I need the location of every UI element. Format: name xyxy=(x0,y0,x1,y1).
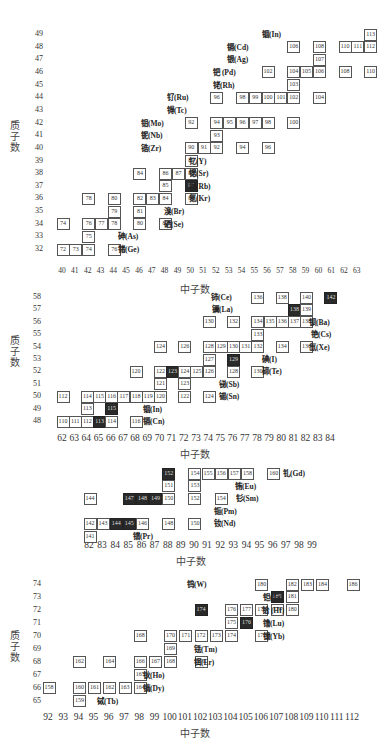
x-tick-label: 96 xyxy=(268,541,278,549)
element-label: 铟(In) xyxy=(143,404,162,413)
nuclide-cell: 171 xyxy=(179,630,192,642)
x-tick-label: 94 xyxy=(74,713,84,721)
nuclide-cell: 149 xyxy=(149,493,162,505)
x-tick-label: 51 xyxy=(199,267,207,275)
element-label: 锝(Tc) xyxy=(167,105,187,114)
x-tick-label: 98 xyxy=(134,713,144,721)
nuclide-cell: 129 xyxy=(215,341,228,353)
nuclide-cell: 81 xyxy=(133,206,146,218)
nuclide-cell: 76 xyxy=(82,218,95,230)
nuclide-cell: 119 xyxy=(142,391,155,403)
nuclide-cell: 101 xyxy=(274,92,287,104)
x-tick-label: 46 xyxy=(135,267,143,275)
nuclide-cell: 129 xyxy=(227,354,240,366)
nuclide-cell: 114 xyxy=(81,391,94,403)
nuclide-cell: 162 xyxy=(103,682,116,694)
y-tick-label: 44 xyxy=(35,93,43,101)
nuclide-cell: 180 xyxy=(286,604,299,616)
x-tick-label: 43 xyxy=(97,267,105,275)
nuclide-cell: 108 xyxy=(339,66,352,78)
x-tick-label: 103 xyxy=(208,713,222,721)
element-label: 钼(Mo) xyxy=(141,118,164,127)
x-tick-label: 72 xyxy=(179,434,189,442)
nuclide-cell: 174 xyxy=(195,604,208,616)
x-tick-label: 53 xyxy=(225,267,233,275)
nuclide-cell: 176 xyxy=(240,617,253,629)
nuclide-cell: 73 xyxy=(69,244,82,256)
x-tick-label: 61 xyxy=(327,267,335,275)
nuclide-cell: 74 xyxy=(57,218,70,230)
x-tick-label: 57 xyxy=(276,267,284,275)
nuclide-cell: 75 xyxy=(82,231,95,243)
x-tick-label: 69 xyxy=(143,434,153,442)
x-tick-label: 92 xyxy=(215,541,225,549)
nuclide-cell: 150 xyxy=(188,518,201,530)
nuclide-cell: 86 xyxy=(159,168,172,180)
nuclide-cell: 146 xyxy=(136,518,149,530)
y-tick-label: 33 xyxy=(35,232,43,240)
nuclide-cell: 136 xyxy=(276,316,289,328)
x-axis-label: 中子数 xyxy=(180,446,210,461)
nuclide-cell: 168 xyxy=(164,656,177,668)
nuclide-cell: 181 xyxy=(286,591,299,603)
x-tick-label: 112 xyxy=(345,713,359,721)
x-axis-label: 中子数 xyxy=(180,281,210,296)
nuclide-cell: 90 xyxy=(185,142,198,154)
x-tick-label: 99 xyxy=(307,541,317,549)
nuclide-cell: 113 xyxy=(93,416,106,428)
nuclide-cell: 150 xyxy=(162,493,175,505)
y-tick-label: 38 xyxy=(35,169,43,177)
nuclide-cell: 152 xyxy=(188,493,201,505)
x-tick-label: 80 xyxy=(276,434,286,442)
x-tick-label: 75 xyxy=(216,434,226,442)
nuclide-cell: 128 xyxy=(227,366,240,378)
element-label: 镥(Lu) xyxy=(263,618,284,627)
element-label: 铒(Er) xyxy=(194,657,214,666)
nuclide-cell: 108 xyxy=(313,41,326,53)
x-tick-label: 95 xyxy=(89,713,99,721)
nuclide-cell: 158 xyxy=(241,468,254,480)
nuclide-cell: 132 xyxy=(251,341,264,353)
x-tick-label: 41 xyxy=(71,267,79,275)
nuclide-cell: 145 xyxy=(123,518,136,530)
x-tick-label: 44 xyxy=(110,267,118,275)
y-tick-label: 58 xyxy=(33,293,41,301)
y-tick-label: 49 xyxy=(33,405,41,413)
nuclide-cell: 177 xyxy=(240,604,253,616)
element-label: 镉(Cd) xyxy=(227,42,249,51)
nuclide-cell: 80 xyxy=(108,193,121,205)
nuclide-cell: 98 xyxy=(236,92,249,104)
y-axis-label: 质子数 xyxy=(6,120,21,153)
y-tick-label: 52 xyxy=(33,367,41,375)
x-tick-label: 63 xyxy=(353,267,361,275)
element-label: 钬(Ho) xyxy=(143,670,165,679)
x-tick-label: 49 xyxy=(174,267,182,275)
nuclide-cell: 131 xyxy=(239,341,252,353)
nuclide-cell: 134 xyxy=(251,316,264,328)
nuclide-cell: 143 xyxy=(97,518,110,530)
nuclide-cell: 144 xyxy=(110,518,123,530)
element-label: 锗(Ge) xyxy=(118,245,139,254)
nuclide-cell: 110 xyxy=(339,41,352,53)
element-label: 镝(Dy) xyxy=(143,683,164,692)
nuclide-cell: 152 xyxy=(162,468,175,480)
nuclide-cell: 175 xyxy=(225,617,238,629)
element-label: 铌(Nb) xyxy=(141,131,163,140)
x-tick-label: 71 xyxy=(167,434,177,442)
nuclide-cell: 113 xyxy=(364,29,377,41)
nuclide-cell: 124 xyxy=(178,366,191,378)
element-label: 钆(Gd) xyxy=(283,469,305,478)
nuclide-cell: 122 xyxy=(178,391,191,403)
nuclide-cell: 112 xyxy=(57,391,70,403)
y-tick-label: 43 xyxy=(35,106,43,114)
y-tick-label: 73 xyxy=(33,593,41,601)
element-label: 镱(Yb) xyxy=(263,631,285,640)
x-tick-label: 54 xyxy=(238,267,246,275)
element-label: 氙(Xe) xyxy=(309,342,330,351)
nuclide-cell: 112 xyxy=(364,41,377,53)
nuclide-cell: 148 xyxy=(136,493,149,505)
nuclide-cell: 140 xyxy=(300,292,313,304)
nuclide-cell: 111 xyxy=(69,416,82,428)
x-tick-label: 79 xyxy=(264,434,274,442)
nuclide-cell: 144 xyxy=(84,493,97,505)
